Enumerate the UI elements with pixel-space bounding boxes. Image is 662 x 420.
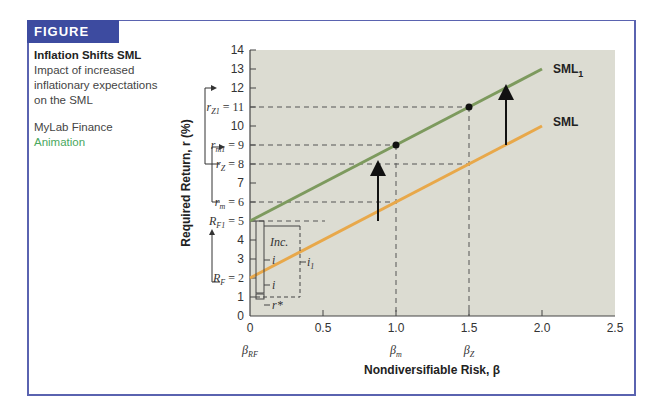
svg-text:RF1 = 5: RF1 = 5 bbox=[208, 214, 244, 230]
i-label-2: i bbox=[272, 278, 275, 292]
x-annotations: βRF βm βZ bbox=[241, 343, 475, 359]
y-axis-title: Required Return, r (%) bbox=[179, 119, 193, 246]
svg-text:0.5: 0.5 bbox=[315, 321, 332, 335]
svg-text:1.5: 1.5 bbox=[461, 321, 478, 335]
svg-text:13: 13 bbox=[231, 62, 245, 76]
svg-text:1.0: 1.0 bbox=[388, 321, 405, 335]
svg-text:0: 0 bbox=[247, 321, 254, 335]
svg-text:βm: βm bbox=[389, 343, 402, 359]
svg-text:2.5: 2.5 bbox=[607, 321, 624, 335]
svg-text:RF = 2: RF = 2 bbox=[212, 271, 244, 287]
svg-text:3: 3 bbox=[237, 252, 244, 266]
svg-text:rZ = 8: rZ = 8 bbox=[216, 157, 244, 173]
svg-text:rZ1 = 11: rZ1 = 11 bbox=[207, 100, 244, 116]
i-label-1: i bbox=[272, 253, 275, 267]
svg-text:1: 1 bbox=[237, 290, 244, 304]
svg-text:rm1 = 9: rm1 = 9 bbox=[211, 138, 244, 154]
annotation-connectors bbox=[205, 88, 222, 282]
point-z-sml1 bbox=[466, 104, 473, 111]
svg-text:4: 4 bbox=[237, 233, 244, 247]
svg-text:0: 0 bbox=[237, 309, 244, 323]
svg-text:12: 12 bbox=[231, 81, 245, 95]
svg-text:10: 10 bbox=[231, 119, 245, 133]
svg-text:7: 7 bbox=[237, 176, 244, 190]
inc-label: Inc. bbox=[269, 235, 288, 249]
chart: 14 13 12 11 10 9 8 7 6 5 4 3 2 1 0 0 0.5… bbox=[0, 0, 662, 420]
sml-label: SML bbox=[553, 115, 578, 129]
x-axis-title: Nondiversifiable Risk, β bbox=[364, 363, 500, 377]
point-market-sml1 bbox=[393, 142, 400, 149]
x-tick-labels: 0 0.5 1.0 1.5 2.0 2.5 bbox=[247, 321, 624, 335]
svg-text:2.0: 2.0 bbox=[534, 321, 551, 335]
svg-text:βZ: βZ bbox=[463, 343, 475, 359]
r-star-label: r* bbox=[272, 298, 283, 312]
svg-text:βRF: βRF bbox=[241, 343, 258, 359]
svg-text:rm = 6: rm = 6 bbox=[215, 195, 244, 211]
svg-text:14: 14 bbox=[231, 43, 245, 57]
